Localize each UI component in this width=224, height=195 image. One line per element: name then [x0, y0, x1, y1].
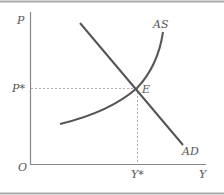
ad-curve — [80, 23, 183, 145]
ad-as-diagram: P P* O Y* Y E AS AD — [0, 0, 224, 195]
as-curve-label: AS — [152, 18, 169, 31]
equilibrium-point-label: E — [141, 83, 150, 96]
x-axis-label: Y — [199, 168, 208, 181]
price-equilibrium-label: P* — [11, 82, 25, 95]
origin-label: O — [18, 161, 27, 174]
as-curve — [60, 32, 163, 124]
y-axis-label: P — [16, 14, 25, 27]
output-equilibrium-label: Y* — [131, 168, 144, 181]
ad-curve-label: AD — [181, 145, 199, 158]
